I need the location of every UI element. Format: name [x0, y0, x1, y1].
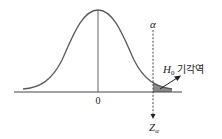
critical-arrowhead-icon	[151, 114, 156, 119]
critical-value-label: Zα	[149, 121, 159, 135]
center-label: 0	[96, 95, 101, 106]
alpha-label: α	[150, 18, 156, 30]
region-pointer-arrow	[160, 78, 177, 89]
arrowhead-icon	[174, 76, 181, 82]
rejection-region-label: H0기각역	[162, 63, 204, 77]
normal-distribution-diagram: 0 α Zα H0기각역	[0, 0, 222, 139]
